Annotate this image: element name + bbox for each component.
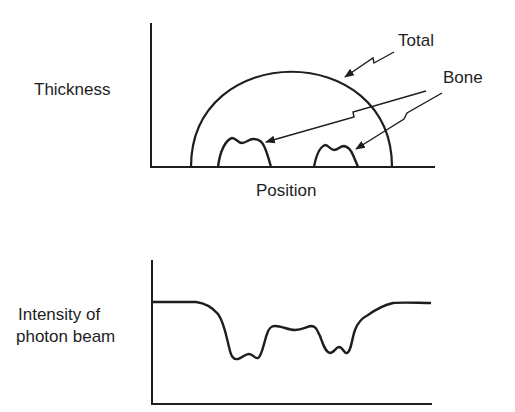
intensity-curve — [152, 302, 431, 359]
bone-annotation: Bone — [443, 68, 483, 88]
thickness-axis-label: Thickness — [34, 80, 111, 100]
total-annotation: Total — [398, 31, 434, 51]
bone-leader-arrow-right — [356, 93, 442, 149]
bone-curve-right — [314, 145, 358, 167]
diagram-canvas — [0, 0, 515, 412]
total-leader-arrow — [345, 52, 394, 77]
intensity-axis-label-line1: Intensity of — [18, 305, 100, 325]
position-axis-label: Position — [256, 181, 316, 201]
bone-leader-arrow-left — [266, 91, 426, 142]
bone-curve-left — [218, 138, 271, 167]
intensity-axis-label-line2: photon beam — [16, 327, 115, 347]
intensity-chart — [151, 260, 432, 405]
